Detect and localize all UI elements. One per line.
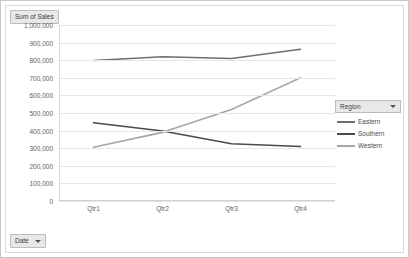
- series-line-southern: [94, 123, 301, 147]
- legend: Region EasternSouthernWestern: [335, 100, 401, 149]
- legend-swatch-icon: [337, 145, 355, 147]
- value-field-label: Sum of Sales: [15, 13, 54, 21]
- gridline: [59, 78, 335, 79]
- gridline: [59, 113, 335, 114]
- legend-item-label: Eastern: [358, 118, 380, 125]
- legend-swatch-icon: [337, 121, 355, 123]
- y-axis-line: [59, 25, 60, 201]
- gridline: [59, 95, 335, 96]
- legend-field-label: Region: [340, 103, 361, 110]
- legend-item-label: Western: [358, 142, 382, 149]
- legend-swatch-icon: [337, 133, 355, 135]
- gridline: [59, 131, 335, 132]
- y-axis-tick-label: 900,000: [1, 39, 53, 46]
- gridline: [59, 148, 335, 149]
- y-axis-tick-label: 600,000: [1, 92, 53, 99]
- gridline: [59, 43, 335, 44]
- axis-field-label: Date: [15, 237, 29, 245]
- series-line-eastern: [94, 49, 301, 60]
- y-axis-tick-label: 800,000: [1, 57, 53, 64]
- gridline: [59, 60, 335, 61]
- legend-item: Western: [335, 142, 401, 149]
- x-axis-tick-label: Qtr3: [202, 205, 262, 212]
- y-axis-tick-label: 400,000: [1, 127, 53, 134]
- y-axis-tick-label: 100,000: [1, 180, 53, 187]
- y-axis-tick-label: 200,000: [1, 162, 53, 169]
- legend-item-label: Southern: [358, 130, 384, 137]
- legend-field-button[interactable]: Region: [335, 100, 401, 113]
- x-axis-tick-label: Qtr1: [64, 205, 124, 212]
- legend-items: EasternSouthernWestern: [335, 118, 401, 149]
- x-axis-tick-label: Qtr4: [271, 205, 331, 212]
- chevron-down-icon[interactable]: [35, 240, 41, 243]
- x-axis-line: [59, 200, 335, 201]
- gridline: [59, 166, 335, 167]
- gridline: [59, 183, 335, 184]
- y-axis-tick-label: 700,000: [1, 74, 53, 81]
- pivot-chart-frame[interactable]: Sum of Sales Date 1,000,000900,000800,00…: [0, 0, 409, 258]
- x-axis-tick-label: Qtr2: [133, 205, 193, 212]
- y-axis-tick-label: 1,000,000: [1, 22, 53, 29]
- gridline: [59, 25, 335, 26]
- chevron-down-icon[interactable]: [390, 105, 396, 108]
- legend-item: Eastern: [335, 118, 401, 125]
- y-axis-tick-label: 300,000: [1, 145, 53, 152]
- axis-field-button[interactable]: Date: [10, 234, 46, 248]
- plot-area: [59, 25, 335, 201]
- gridline: [59, 201, 335, 202]
- y-axis-tick-label: 0: [1, 198, 53, 205]
- y-axis-tick-label: 500,000: [1, 110, 53, 117]
- legend-item: Southern: [335, 130, 401, 137]
